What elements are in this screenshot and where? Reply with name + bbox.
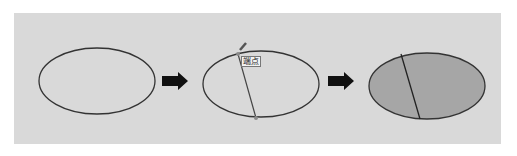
arrow-right-icon (162, 72, 188, 90)
endpoint-marker (236, 52, 240, 56)
pencil-cursor-icon (240, 43, 246, 50)
diagram-canvas (0, 0, 517, 156)
arrow-right-icon (328, 72, 354, 90)
plain-ellipse (39, 48, 155, 114)
endpoint-label: 端点 (241, 56, 261, 67)
endpoint-marker (254, 116, 258, 120)
ellipse-with-line (203, 51, 319, 117)
filled-ellipse (369, 53, 485, 119)
